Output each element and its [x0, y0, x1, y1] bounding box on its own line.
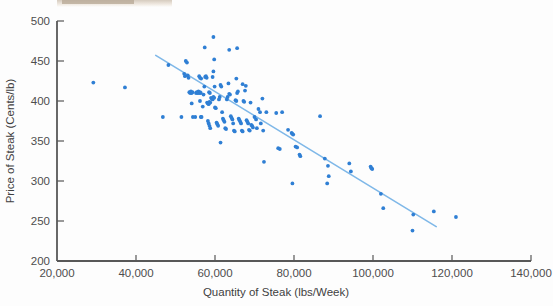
data-point [291, 182, 295, 186]
data-point [280, 110, 284, 114]
x-tick-label: 20,000 [39, 267, 74, 279]
data-point [235, 46, 239, 50]
data-point [318, 114, 322, 118]
x-tick-label: 100,000 [352, 267, 394, 279]
data-point [326, 164, 330, 168]
data-point [241, 130, 245, 134]
data-point [213, 85, 217, 89]
data-point [381, 206, 385, 210]
data-point [454, 215, 458, 219]
data-point [212, 96, 216, 100]
data-point [291, 133, 295, 137]
data-point [349, 170, 353, 174]
y-tick-label: 350 [31, 135, 50, 147]
axes [57, 21, 531, 261]
data-point [198, 99, 202, 103]
data-point [214, 106, 218, 110]
data-point [239, 122, 243, 126]
data-point [370, 167, 374, 171]
data-point [243, 89, 247, 93]
data-point [411, 229, 415, 233]
data-point [323, 157, 327, 161]
data-point [251, 126, 255, 130]
data-point [202, 85, 206, 89]
data-point [236, 90, 240, 94]
data-point [230, 118, 234, 122]
y-tick-label: 450 [31, 55, 50, 67]
data-point [234, 99, 238, 103]
data-point [208, 126, 212, 130]
data-point [255, 126, 259, 130]
data-point [242, 100, 246, 104]
data-point [286, 128, 290, 132]
data-point [259, 122, 263, 126]
tick-marks [57, 21, 531, 261]
data-point [201, 105, 205, 109]
data-point [212, 58, 216, 62]
data-point [205, 76, 209, 80]
data-point [166, 63, 170, 67]
trendline [156, 55, 436, 226]
data-point [254, 118, 258, 122]
data-points [91, 35, 457, 232]
data-point [208, 91, 212, 95]
data-point [216, 124, 220, 128]
y-tick-label: 400 [31, 95, 50, 107]
data-point [223, 120, 227, 124]
data-point [203, 46, 207, 50]
data-point [218, 95, 222, 99]
data-point [187, 76, 191, 80]
y-axis-title: Price of Steak (Cents/lb) [4, 79, 16, 204]
data-point [180, 115, 184, 119]
data-point [411, 213, 415, 217]
data-point [258, 110, 262, 114]
data-point [199, 77, 203, 81]
data-point [325, 182, 329, 186]
data-point [161, 115, 165, 119]
x-tick-label: 120,000 [431, 267, 473, 279]
y-tick-label: 250 [31, 215, 50, 227]
x-axis-title: Quantity of Steak (lbs/Week) [203, 286, 349, 298]
data-point [248, 129, 252, 133]
data-point [295, 146, 299, 150]
data-point [193, 115, 197, 119]
data-point [212, 70, 216, 74]
data-point [227, 82, 231, 86]
data-point [261, 129, 265, 133]
regression-trendline [156, 55, 436, 226]
data-point [278, 147, 282, 151]
x-tick-label: 40,000 [118, 267, 153, 279]
data-point [228, 93, 232, 97]
y-tick-label: 300 [31, 175, 50, 187]
data-point [233, 130, 237, 134]
data-point [219, 141, 223, 145]
data-point [264, 110, 268, 114]
data-point [191, 90, 195, 94]
data-point [379, 192, 383, 196]
y-tick-labels: 200250300350400450500 [31, 15, 50, 267]
data-point [347, 162, 351, 166]
data-point [241, 82, 245, 86]
data-point [220, 110, 224, 114]
data-point [190, 102, 194, 106]
data-point [249, 101, 253, 105]
data-point [261, 97, 265, 101]
data-point [224, 127, 228, 131]
data-point [227, 48, 231, 52]
chart-figure: 20,00040,00060,00080,000100,000120,00014… [0, 0, 553, 306]
data-point [274, 111, 278, 115]
x-tick-label: 60,000 [197, 267, 232, 279]
data-point [185, 61, 189, 65]
x-tick-labels: 20,00040,00060,00080,000100,000120,00014… [39, 267, 551, 279]
data-point [91, 81, 95, 85]
data-point [298, 154, 302, 158]
x-tick-label: 140,000 [510, 267, 552, 279]
data-point [234, 77, 238, 81]
data-point [219, 85, 223, 89]
data-point [327, 174, 331, 178]
data-point [212, 35, 216, 39]
data-point [262, 160, 266, 164]
y-tick-label: 500 [31, 15, 50, 27]
scatter-plot: 20,00040,00060,00080,000100,000120,00014… [0, 0, 553, 306]
data-point [231, 122, 235, 126]
